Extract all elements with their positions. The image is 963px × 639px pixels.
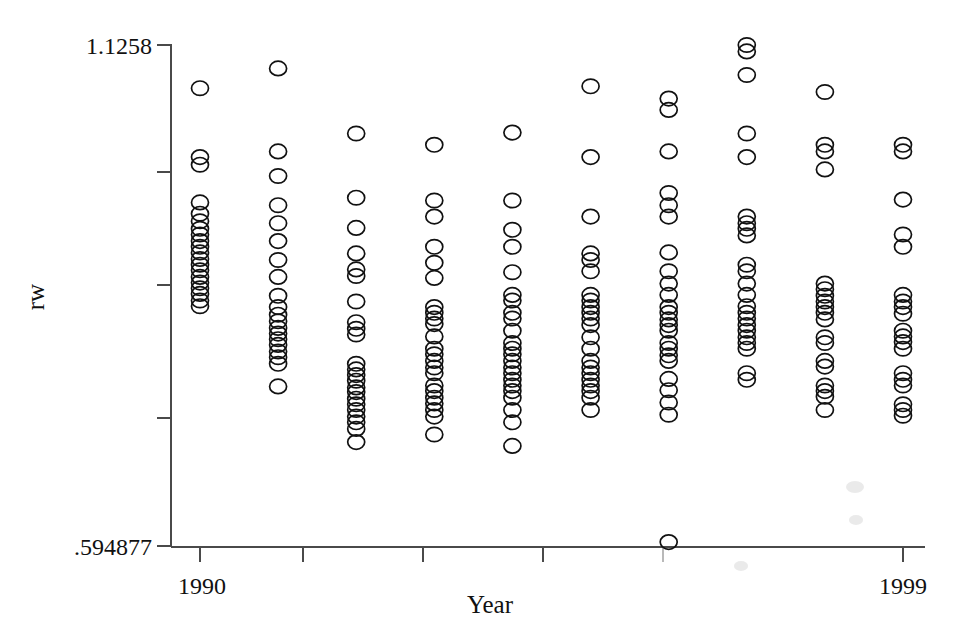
data-point bbox=[192, 81, 209, 95]
data-point bbox=[348, 246, 365, 260]
data-point bbox=[348, 221, 365, 235]
data-point bbox=[270, 61, 287, 75]
data-point bbox=[426, 256, 443, 270]
data-point bbox=[270, 289, 287, 303]
data-point bbox=[816, 85, 833, 99]
data-point bbox=[582, 79, 599, 93]
data-point bbox=[660, 91, 677, 105]
data-point bbox=[738, 288, 755, 302]
data-point bbox=[816, 162, 833, 176]
x-axis-ticks bbox=[200, 547, 903, 562]
x-tick-label-1990: 1990 bbox=[178, 573, 226, 599]
data-point bbox=[270, 144, 287, 158]
data-point bbox=[738, 126, 755, 140]
data-point-group bbox=[192, 38, 912, 550]
y-axis-title: rw bbox=[22, 284, 49, 310]
data-point bbox=[582, 150, 599, 164]
scan-artifacts bbox=[734, 481, 864, 571]
data-point bbox=[504, 265, 521, 279]
y-tick-label-min: .594877 bbox=[74, 534, 152, 560]
data-point bbox=[426, 271, 443, 285]
data-point bbox=[192, 195, 209, 209]
data-point bbox=[582, 264, 599, 278]
y-tick-label-max: 1.1258 bbox=[86, 33, 152, 59]
data-point bbox=[504, 240, 521, 254]
scatter-plot-figure: 1.1258 .594877 1990 1999 Year rw bbox=[0, 0, 963, 639]
data-point bbox=[270, 379, 287, 393]
data-point bbox=[504, 125, 521, 139]
data-point bbox=[660, 245, 677, 259]
data-point bbox=[660, 144, 677, 158]
data-point bbox=[426, 209, 443, 223]
data-point bbox=[582, 209, 599, 223]
data-point bbox=[660, 103, 677, 117]
data-point bbox=[738, 150, 755, 164]
data-point bbox=[270, 253, 287, 267]
data-point bbox=[816, 403, 833, 417]
data-point bbox=[504, 193, 521, 207]
data-point bbox=[895, 192, 912, 206]
data-point bbox=[270, 216, 287, 230]
data-point bbox=[426, 240, 443, 254]
data-point bbox=[504, 439, 521, 453]
data-point bbox=[348, 126, 365, 140]
data-point bbox=[270, 169, 287, 183]
x-axis-title: Year bbox=[467, 591, 514, 618]
data-point bbox=[348, 191, 365, 205]
plot-canvas: 1.1258 .594877 1990 1999 Year rw bbox=[0, 0, 963, 639]
data-point bbox=[426, 427, 443, 441]
data-point bbox=[504, 223, 521, 237]
data-point bbox=[270, 234, 287, 248]
data-point bbox=[738, 68, 755, 82]
data-point bbox=[270, 198, 287, 212]
data-point bbox=[270, 270, 287, 284]
data-point bbox=[348, 435, 365, 449]
data-point bbox=[660, 372, 677, 386]
data-point bbox=[426, 138, 443, 152]
y-axis-ticks bbox=[157, 45, 171, 546]
x-tick-label-1999: 1999 bbox=[879, 573, 927, 599]
data-point bbox=[426, 193, 443, 207]
data-point bbox=[348, 294, 365, 308]
